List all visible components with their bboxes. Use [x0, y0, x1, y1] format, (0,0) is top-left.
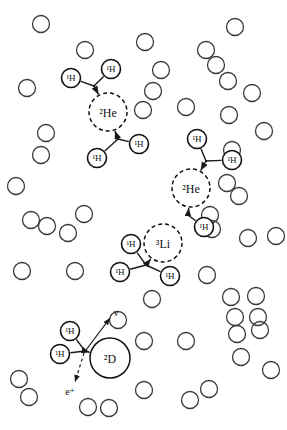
free-proton [135, 102, 152, 119]
reaction-stem-arrow [94, 86, 99, 94]
reactant-proton-label: ¹H [199, 222, 209, 232]
free-proton [240, 230, 257, 247]
reactant-proton: ¹H [130, 135, 149, 154]
free-proton [229, 326, 246, 343]
reactant-proton: ¹H [62, 69, 81, 88]
reactant-bond [76, 339, 85, 351]
reactant-proton-label: ¹H [65, 326, 75, 336]
free-proton [23, 212, 40, 229]
reactant-bond [137, 253, 146, 265]
reactant-proton-label: ¹H [165, 271, 175, 281]
reactant-proton-label: ¹H [115, 267, 125, 277]
reaction-junction [93, 85, 95, 87]
free-proton-gas-layer [8, 16, 285, 417]
free-proton [67, 263, 84, 280]
reactant-bond [201, 149, 206, 161]
free-proton [39, 218, 56, 235]
free-proton [101, 400, 118, 417]
free-proton [144, 291, 161, 308]
reactant-proton: ¹H [51, 345, 70, 364]
free-proton [220, 73, 237, 90]
reactant-proton-label: ¹H [227, 155, 237, 165]
free-proton [198, 42, 215, 59]
reaction-junction [145, 264, 147, 266]
reactant-bond [188, 215, 196, 221]
free-proton [231, 188, 248, 205]
free-proton [252, 322, 269, 339]
free-proton [178, 99, 195, 116]
reaction-junction [187, 214, 189, 216]
reaction-junction [117, 138, 119, 140]
reaction-stem-arrow [115, 131, 118, 139]
free-proton [136, 333, 153, 350]
reaction-junction [205, 160, 207, 162]
free-proton [227, 309, 244, 326]
reactant-proton: ¹H [111, 263, 130, 282]
free-proton [221, 107, 238, 124]
reactant-proton: ¹H [88, 149, 107, 168]
reactant-proton-label: ¹H [92, 153, 102, 163]
free-proton [223, 289, 240, 306]
reactant-proton: ¹H [223, 151, 242, 170]
reaction-nodes-layer: ¹H¹H¹H¹H²He¹H¹H¹H²He¹H¹H¹H³Li¹H¹H²Dνe⁺ [51, 60, 242, 398]
reactant-bond [70, 351, 85, 353]
positron-arrow [75, 353, 84, 382]
free-proton [77, 42, 94, 59]
reactant-proton-label: ¹H [106, 64, 116, 74]
reactant-proton-label: ¹H [134, 139, 144, 149]
fusion-product: ³Li [144, 224, 182, 262]
free-proton [33, 147, 50, 164]
reactant-proton-label: ¹H [126, 239, 136, 249]
reactant-proton: ¹H [195, 218, 214, 237]
reactant-proton-label: ¹H [192, 134, 202, 144]
free-proton [19, 80, 36, 97]
free-proton [60, 225, 77, 242]
fusion-product-label: ²He [99, 106, 117, 120]
reactant-bond [206, 160, 222, 161]
free-proton [263, 362, 280, 379]
fusion-product: ²He [172, 169, 210, 207]
reactant-bond [146, 265, 160, 272]
free-proton [76, 206, 93, 223]
reactant-proton: ¹H [61, 322, 80, 341]
reactant-proton: ¹H [102, 60, 121, 79]
free-proton [182, 392, 199, 409]
free-proton [227, 19, 244, 36]
reactant-proton: ¹H [188, 130, 207, 149]
free-proton [14, 263, 31, 280]
free-proton [248, 288, 265, 305]
reactant-bond [81, 81, 94, 86]
free-proton [268, 228, 285, 245]
fusion-product-label: ²He [182, 182, 200, 196]
free-proton [199, 267, 216, 284]
reactant-proton-label: ¹H [55, 349, 65, 359]
pp-chain-figure: ¹H¹H¹H¹H²He¹H¹H¹H²He¹H¹H¹H³Li¹H¹H²Dνe⁺ [0, 0, 287, 430]
free-proton [244, 85, 261, 102]
free-proton [233, 349, 250, 366]
free-proton [33, 16, 50, 33]
reaction-stem-arrow [201, 161, 206, 171]
reactant-bond [118, 139, 129, 142]
reactant-bond [105, 139, 118, 151]
free-proton [137, 34, 154, 51]
free-proton [11, 371, 28, 388]
reactant-proton: ¹H [161, 267, 180, 286]
free-proton [8, 178, 25, 195]
free-proton [208, 57, 225, 74]
fusion-diagram-canvas: ¹H¹H¹H¹H²He¹H¹H¹H²He¹H¹H¹H³Li¹H¹H²Dνe⁺ [0, 0, 287, 430]
free-proton [256, 123, 273, 140]
reactant-proton: ¹H [122, 235, 141, 254]
free-proton [145, 83, 162, 100]
reactant-bond [94, 76, 104, 86]
positron-label: e⁺ [65, 386, 75, 397]
reactant-bond [130, 265, 146, 269]
fusion-product-label: ³Li [156, 237, 171, 251]
reaction-junction [84, 350, 86, 352]
free-proton [80, 399, 97, 416]
neutrino-label: ν [114, 307, 119, 318]
fusion-product-label: ²D [104, 352, 117, 366]
reactant-proton-label: ¹H [66, 73, 76, 83]
free-proton [21, 389, 38, 406]
free-proton [178, 333, 195, 350]
free-proton [201, 381, 218, 398]
